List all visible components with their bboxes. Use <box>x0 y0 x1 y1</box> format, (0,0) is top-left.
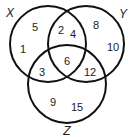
set-label-y: Y <box>119 8 127 20</box>
region-x-only-value: 1 <box>20 44 26 55</box>
region-x-only-value: 5 <box>32 22 38 33</box>
region-xz-value: 3 <box>39 67 45 78</box>
venn-diagram <box>0 0 130 137</box>
region-xy-value: 4 <box>70 29 76 40</box>
set-label-x: X <box>6 7 14 19</box>
region-xyz-value: 6 <box>64 56 70 67</box>
region-y-only-value: 8 <box>93 20 99 31</box>
set-label-z: Z <box>63 125 70 137</box>
region-z-only-value: 9 <box>50 97 56 108</box>
region-z-only-value: 15 <box>71 102 83 113</box>
region-yz-value: 12 <box>84 67 96 78</box>
region-xy-value: 2 <box>58 25 64 36</box>
region-y-only-value: 10 <box>107 42 119 53</box>
